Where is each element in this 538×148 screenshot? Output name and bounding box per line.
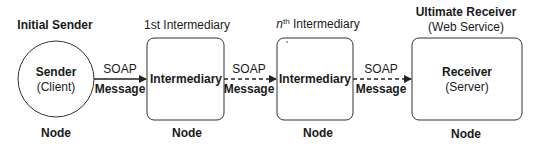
node-footer-intermediary-n: Node [303, 127, 333, 139]
edge-2-label-bottom: Message [224, 83, 275, 95]
edge-1-label-bottom: Message [95, 83, 146, 95]
node-footer-sender: Node [41, 127, 71, 139]
sender-node-shape [18, 41, 94, 117]
stray-dot [286, 41, 288, 43]
node-sub-client: (Client) [37, 81, 76, 93]
receiver-node-shape [412, 38, 522, 120]
node-footer-intermediary-1: Node [172, 127, 202, 139]
role-sublabel-web-service: (Web Service) [428, 21, 504, 33]
role-label-ultimate-receiver: Ultimate Receiver [416, 6, 517, 18]
role-label-nth-intermediary: nth Intermediary [276, 18, 359, 30]
role-prefix: n [276, 17, 283, 31]
node-name-intermediary-n: Intermediary [279, 73, 351, 85]
node-sub-server: (Server) [445, 81, 488, 93]
edge-2-label-top: SOAP [232, 63, 265, 75]
edge-1-label-top: SOAP [103, 63, 136, 75]
node-name-receiver: Receiver [442, 66, 492, 78]
node-footer-receiver: Node [451, 128, 481, 140]
node-name-intermediary-1: Intermediary [150, 73, 222, 85]
edge-3-label-bottom: Message [356, 83, 407, 95]
edge-3-label-top: SOAP [364, 63, 397, 75]
role-suffix: Intermediary [290, 17, 360, 31]
role-label-initial-sender: Initial Sender [17, 19, 92, 31]
role-label-first-intermediary: 1st Intermediary [144, 19, 230, 31]
node-name-sender: Sender [36, 66, 77, 78]
